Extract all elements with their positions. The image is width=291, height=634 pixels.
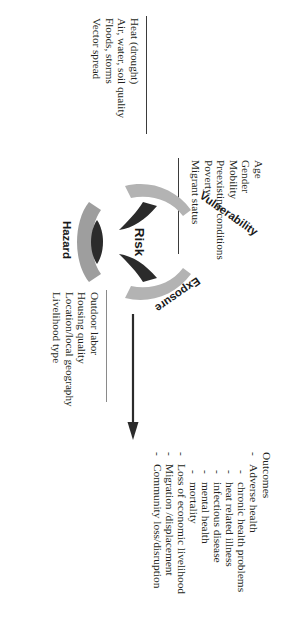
- outcome-dash: -: [152, 452, 164, 464]
- outcome-subitem: - infectious disease: [212, 470, 224, 594]
- hazard-item: Air, water, soil quality: [116, 18, 129, 118]
- hazard-item: Floods, storms: [103, 18, 116, 118]
- outcome-item: - Loss of economic livelihood: [176, 452, 188, 594]
- outcome-dash: -: [224, 470, 236, 482]
- outcome-item: - Adverse health: [248, 452, 260, 594]
- outcome-dash: -: [176, 452, 188, 464]
- hazard-divider: [146, 16, 147, 134]
- outcome-dash: -: [200, 470, 212, 482]
- outcome-label: Migration /displacement: [164, 464, 176, 576]
- exposure-item-list: Outdoor labor Housing quality Location/l…: [51, 292, 101, 407]
- outcome-subitem: - mental health: [200, 470, 212, 594]
- outcome-dash: -: [212, 470, 224, 482]
- exposure-item: Livelihood type: [51, 292, 64, 407]
- outcome-sublabel: chronic health problems: [236, 482, 248, 592]
- outcome-dash: -: [248, 452, 260, 464]
- outcome-sublabel: heat related illness: [224, 482, 236, 567]
- outcome-dash: -: [188, 470, 200, 482]
- outcome-subitem: - mortality: [188, 470, 200, 594]
- vulnerability-item: Age: [252, 160, 265, 260]
- vulnerability-item: Gender: [240, 160, 253, 260]
- outcome-dash: -: [236, 470, 248, 482]
- outcome-dash: -: [164, 452, 176, 464]
- risk-hub: Risk Vulnerability Exposure Hazard: [69, 176, 201, 308]
- outcome-label: Loss of economic livelihood: [176, 464, 188, 594]
- exposure-item: Housing quality: [76, 292, 89, 407]
- outcome-subitem: - heat related illness: [224, 470, 236, 594]
- outcome-sublabel: mental health: [200, 482, 212, 544]
- outcomes-title: Outcomes: [261, 452, 273, 594]
- hazard-label: Hazard: [61, 221, 73, 259]
- hub-label: Risk: [132, 176, 147, 308]
- exposure-item: Outdoor labor: [88, 292, 101, 407]
- hazard-item-list: Heat (drought) Air, water, soil quality …: [91, 18, 141, 118]
- diagram-canvas: Heat (drought) Air, water, soil quality …: [0, 0, 291, 634]
- outcome-item: - Community loss/disruption: [152, 452, 164, 594]
- outcome-subitem: - chronic health problems: [236, 470, 248, 594]
- risk-to-outcomes-arrow-icon: [129, 314, 141, 440]
- outcomes-block: Outcomes - Adverse health - chronic heal…: [152, 452, 273, 594]
- outcome-label: Adverse health: [248, 464, 260, 533]
- hazard-item: Heat (drought): [128, 18, 141, 118]
- outcome-sublist: - chronic health problems - heat related…: [188, 470, 248, 594]
- outcome-label: Community loss/disruption: [152, 464, 164, 588]
- outcome-item: - Migration /displacement: [164, 452, 176, 594]
- outcome-sublabel: infectious disease: [212, 482, 224, 563]
- hazard-item: Vector spread: [91, 18, 104, 118]
- outcome-sublabel: mortality: [188, 482, 200, 524]
- exposure-item: Location/local geography: [63, 292, 76, 407]
